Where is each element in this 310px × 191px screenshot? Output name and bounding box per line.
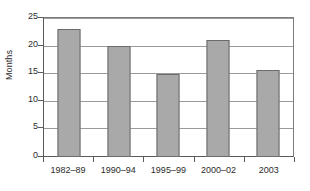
y-tick-label-10: 10 [0,95,38,104]
y-tick-label-20: 20 [0,40,38,49]
bar-slot-4 [243,18,293,157]
y-tick-label-25: 25 [0,12,38,21]
y-tick-25 [38,17,43,18]
x-tick-2 [143,157,144,162]
bar-1990-94[interactable] [107,46,130,157]
x-tick-label-2000-02: 2000–02 [194,166,244,175]
x-tick-5 [294,157,295,162]
y-tick-15 [38,72,43,73]
y-tick-20 [38,45,43,46]
y-tick-5 [38,127,43,128]
x-tick-0 [43,157,44,162]
bar-1982-89[interactable] [57,29,80,157]
bar-slot-0 [44,18,94,157]
y-tick-label-0: 0 [0,151,38,160]
x-tick-4 [244,157,245,162]
bars-layer [44,18,293,157]
x-tick-1 [93,157,94,162]
bar-chart: Months 25 20 15 10 5 0 [0,0,310,191]
bar-slot-2 [144,18,194,157]
bar-slot-1 [94,18,144,157]
x-tick-label-1982-89: 1982–89 [43,166,93,175]
y-tick-10 [38,100,43,101]
y-tick-label-15: 15 [0,67,38,76]
bar-slot-3 [193,18,243,157]
bar-2000-02[interactable] [207,40,230,157]
bar-1995-99[interactable] [157,74,180,157]
y-tick-label-5: 5 [0,122,38,131]
x-tick-label-1990-94: 1990–94 [93,166,143,175]
x-tick-3 [194,157,195,162]
bar-2003[interactable] [257,70,280,157]
x-tick-label-2003: 2003 [244,166,294,175]
x-tick-label-1995-99: 1995–99 [143,166,193,175]
